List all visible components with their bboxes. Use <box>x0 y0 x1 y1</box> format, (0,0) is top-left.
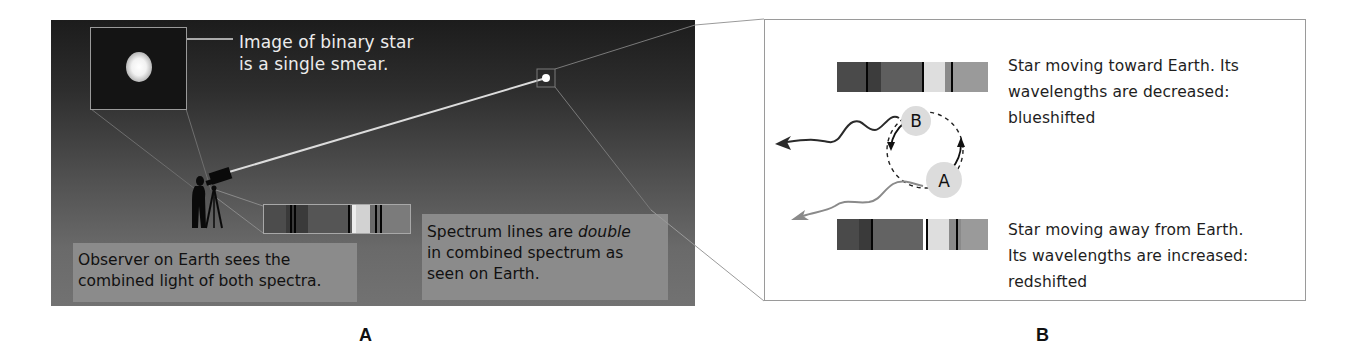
connector-line-top <box>695 19 764 25</box>
observer-label: Observer on Earth sees the combined ligh… <box>73 243 357 302</box>
star-b: B <box>901 106 931 136</box>
spectrum-label-line1: Spectrum lines are double <box>427 222 663 243</box>
observer-silhouette-icon <box>192 176 206 228</box>
blueshift-wave-arrowhead <box>775 136 791 150</box>
figure-label-b: B <box>1036 325 1049 346</box>
star-b-label: B <box>910 111 922 131</box>
star-icon <box>542 74 550 82</box>
smeared-star-icon <box>126 52 152 82</box>
blueshift-wave <box>787 117 899 142</box>
redshift-caption-line3: redshifted <box>1008 269 1248 295</box>
panel-a-observation-scene: Image of binary star is a single smear. … <box>51 20 695 306</box>
blueshift-caption-line3: blueshifted <box>1008 105 1239 131</box>
inset-zoom-line-left <box>91 109 199 192</box>
binary-star-inset <box>90 27 187 110</box>
star-a-label: A <box>938 171 950 191</box>
blueshift-caption: Star moving toward Earth. Its wavelength… <box>1008 53 1239 131</box>
redshift-caption: Star moving away from Earth. Its wavelen… <box>1008 217 1248 295</box>
spectrum-label-line2: in combined spectrum as <box>427 243 663 264</box>
light-beam-line <box>229 78 546 172</box>
combined-spectrum <box>263 204 411 234</box>
spectrum-zoom-line-top <box>216 190 263 206</box>
smear-caption-line2: is a single smear. <box>239 53 414 75</box>
blueshift-caption-line1: Star moving toward Earth. Its <box>1008 53 1239 79</box>
redshift-caption-line2: Its wavelengths are increased: <box>1008 243 1248 269</box>
figure-label-a: A <box>359 325 372 346</box>
observer-label-line2: combined light of both spectra. <box>78 271 352 292</box>
smear-caption-line1: Image of binary star <box>239 31 414 53</box>
smear-caption: Image of binary star is a single smear. <box>239 31 414 75</box>
blueshift-caption-line2: wavelengths are decreased: <box>1008 79 1239 105</box>
star-zoom-line-bottom <box>555 87 651 210</box>
telescope-icon <box>206 167 233 228</box>
spectrum-label-text: Spectrum lines are <box>427 223 578 241</box>
orbit-arrowhead-b <box>887 142 895 151</box>
star-zoom-line-top <box>555 25 695 69</box>
star-a: A <box>926 162 962 198</box>
observer-label-line1: Observer on Earth sees the <box>78 250 352 271</box>
redshift-wave <box>803 181 923 216</box>
spectrum-label: Spectrum lines are double in combined sp… <box>422 214 668 300</box>
redshift-caption-line1: Star moving away from Earth. <box>1008 217 1248 243</box>
orbit-arrowhead-a <box>957 137 965 147</box>
panel-b-doppler-detail: B A Star moving toward Earth. Its wavele… <box>764 19 1306 301</box>
spectrum-label-emphasis: double <box>578 223 631 241</box>
spectrum-label-line3: seen on Earth. <box>427 264 663 285</box>
